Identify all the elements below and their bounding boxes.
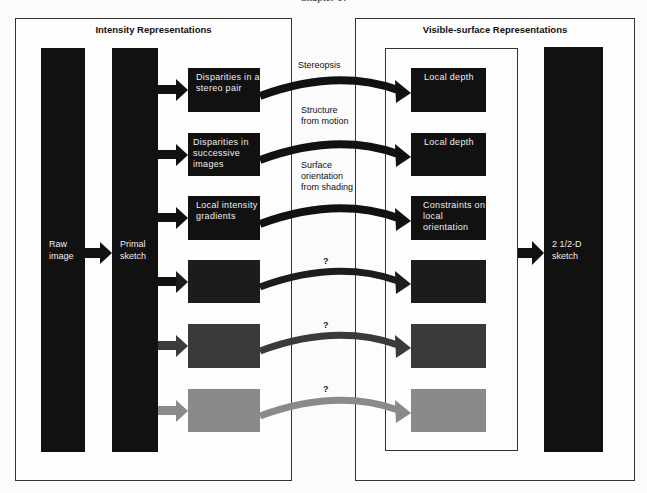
source-box-stereo: Disparities in a stereo pair <box>188 68 260 112</box>
target-box-unknown-2 <box>411 324 486 368</box>
arrows-layer <box>0 0 647 493</box>
source-box-successive-images: Disparities in successive images <box>188 133 260 176</box>
source-box-unknown-3 <box>188 389 260 432</box>
process-label-shape-from-shading: Surface orientation from shading <box>301 160 357 193</box>
source-box-unknown-1 <box>188 260 260 303</box>
process-label-stereopsis: Stereopsis <box>298 60 358 71</box>
target-box-unknown-1 <box>411 260 486 303</box>
target-box-unknown-3 <box>411 389 486 432</box>
process-label-unknown-2: ? <box>323 320 329 330</box>
primal-to-source-arrows <box>158 79 188 293</box>
process-label-structure-from-motion: Structure from motion <box>301 105 353 127</box>
source-box-intensity-gradients: Local intensity gradients <box>188 196 260 240</box>
process-label-unknown-3: ? <box>323 384 329 394</box>
target-box-local-orientation: Constraints on local orientation <box>411 196 486 240</box>
target-box-local-depth-2: Local depth <box>411 133 486 176</box>
raw-to-primal-arrow <box>85 242 112 264</box>
process-label-unknown-1: ? <box>323 256 329 266</box>
target-box-local-depth-1: Local depth <box>411 68 486 112</box>
source-box-unknown-2 <box>188 324 260 368</box>
inner-to-2-5d-arrow <box>518 241 544 265</box>
